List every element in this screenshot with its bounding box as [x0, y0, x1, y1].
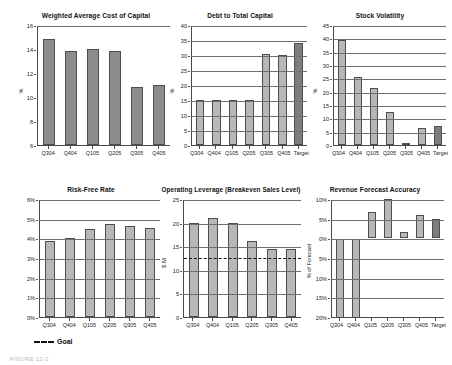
x-tick-label: Q405 — [415, 150, 432, 156]
y-tick-label: 10% — [316, 197, 330, 203]
y-tick-label: 0 — [176, 315, 182, 321]
x-tick — [104, 146, 126, 149]
grid-line — [332, 200, 444, 201]
bar[interactable] — [286, 249, 296, 317]
bar[interactable] — [43, 39, 54, 145]
bar[interactable] — [245, 100, 254, 145]
grid-line — [40, 259, 160, 260]
y-tick-label: 5% — [27, 217, 38, 223]
bar[interactable] — [212, 100, 221, 145]
x-tick — [100, 318, 120, 321]
y-tick-label: 5% — [319, 217, 330, 223]
x-tick — [81, 146, 103, 149]
x-tick-label: Q304 — [39, 322, 59, 328]
grid-line — [192, 71, 307, 72]
bar[interactable] — [196, 100, 205, 145]
x-tick — [208, 146, 225, 149]
bar[interactable] — [386, 112, 394, 145]
bar[interactable] — [65, 51, 76, 145]
y-tick-label: 20 — [323, 90, 332, 96]
y-tick-label: 25 — [181, 68, 190, 74]
bar[interactable] — [153, 85, 164, 145]
y-tick-label: 15 — [323, 103, 332, 109]
x-tick — [379, 318, 395, 321]
grid-line — [334, 53, 446, 54]
bar-series — [38, 26, 170, 145]
y-axis-ticks: 0510152025303540 — [170, 26, 190, 146]
bar[interactable] — [131, 87, 142, 145]
x-tick — [183, 318, 203, 321]
x-tick — [203, 318, 223, 321]
bar[interactable] — [247, 241, 257, 317]
grid-line — [334, 39, 446, 40]
x-tick — [290, 146, 307, 149]
bar[interactable] — [105, 224, 115, 317]
chart-title: Risk-Free Rate — [16, 186, 166, 193]
bar[interactable] — [267, 249, 277, 317]
x-tick-label: Q305 — [258, 150, 275, 156]
bar[interactable] — [368, 212, 376, 239]
grid-line — [334, 106, 446, 107]
x-tick-label: Q404 — [345, 322, 362, 328]
y-tick-label: 15% — [316, 295, 330, 301]
plot-canvas — [39, 200, 160, 318]
x-axis-labels: Q304Q404Q105Q205Q305Q405Target — [330, 150, 449, 156]
x-tick-label: Q205 — [100, 322, 120, 328]
chart-panel-risk-free-rate: Risk-Free Rate 0%1%2%3%4%5%6% Q304Q404Q1… — [16, 186, 166, 356]
bar[interactable] — [402, 143, 410, 145]
bar[interactable] — [434, 126, 442, 145]
bar[interactable] — [228, 223, 238, 317]
x-axis-labels: Q304Q404Q105Q205Q305Q405 — [37, 150, 170, 156]
grid-line — [184, 224, 301, 225]
y-tick-label: 15 — [173, 244, 182, 250]
x-tick — [349, 146, 365, 149]
x-tick-label: Q405 — [413, 322, 430, 328]
x-tick — [381, 146, 397, 149]
x-tick — [241, 146, 258, 149]
y-tick-label: 25 — [173, 197, 182, 203]
x-tick-label: Q305 — [120, 322, 140, 328]
y-tick-label: 20 — [181, 83, 190, 89]
grid-line — [192, 26, 307, 27]
bar[interactable] — [370, 88, 378, 145]
grid-line — [334, 66, 446, 67]
bar[interactable] — [354, 77, 362, 145]
x-tick — [333, 146, 349, 149]
bar[interactable] — [432, 219, 440, 239]
bar[interactable] — [229, 100, 238, 145]
bar[interactable] — [416, 215, 424, 239]
bar[interactable] — [294, 43, 303, 145]
plot-area-risk-free: 0%1%2%3%4%5%6% Q304Q404Q105Q205Q305Q405 … — [16, 200, 166, 356]
x-tick-label: Q105 — [223, 150, 240, 156]
y-tick-label: 20% — [316, 315, 330, 321]
chart-panel-debt-to-total-capital: Debt to Total Capital % 0510152025303540… — [166, 12, 314, 172]
bar[interactable] — [208, 218, 218, 317]
y-tick-label: 30 — [323, 63, 332, 69]
grid-line — [38, 26, 170, 27]
grid-line — [184, 294, 301, 295]
y-tick-label: 15 — [181, 98, 190, 104]
figure-page: Weighted Average Cost of Capital % 68101… — [0, 0, 452, 365]
x-tick-label: Target — [430, 322, 447, 328]
y-axis-ticks: 0510152025 — [164, 200, 182, 318]
x-axis-ticks — [183, 318, 301, 321]
plot-area-operating-leverage: $ M 0510152025 Q304Q404Q105Q205Q305Q405 — [152, 200, 310, 356]
bar[interactable] — [400, 232, 408, 239]
y-tick-label: 35 — [323, 50, 332, 56]
grid-line — [334, 93, 446, 94]
grid-line — [332, 279, 444, 280]
bar[interactable] — [189, 223, 199, 317]
x-tick-label: Target — [293, 150, 310, 156]
bar[interactable] — [418, 128, 426, 145]
bar[interactable] — [87, 49, 98, 145]
y-tick-label: 10% — [316, 276, 330, 282]
x-tick-label: Target — [432, 150, 449, 156]
x-tick — [222, 318, 242, 321]
y-tick-label: 45 — [323, 23, 332, 29]
grid-line — [334, 26, 446, 27]
y-tick-label: 14 — [27, 47, 36, 53]
grid-line — [334, 79, 446, 80]
bar[interactable] — [109, 51, 120, 145]
bar[interactable] — [85, 229, 95, 317]
y-tick-label: 10 — [173, 268, 182, 274]
